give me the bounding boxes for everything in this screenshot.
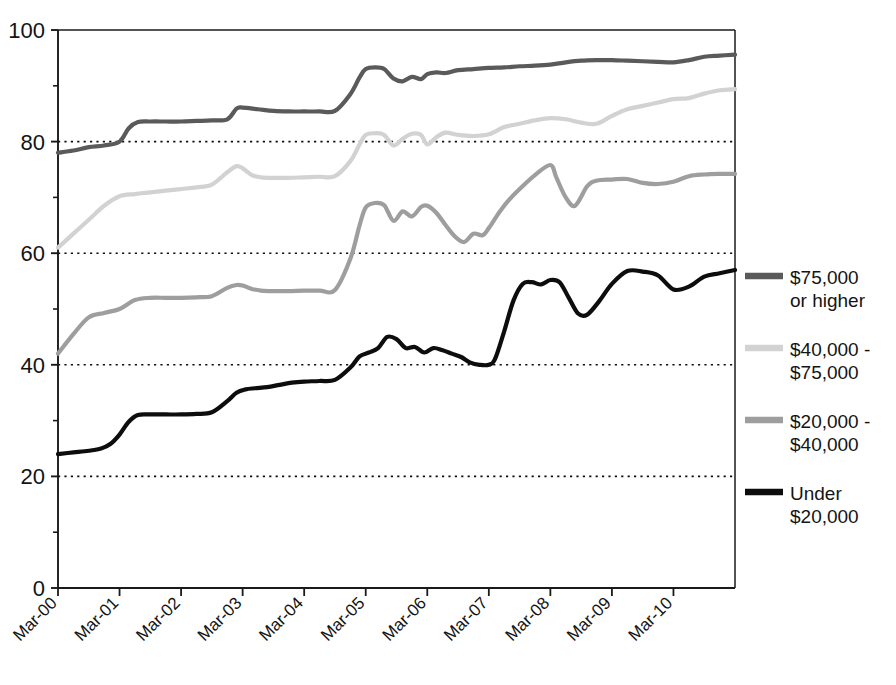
y-axis-ticks [51,30,58,588]
y-axis-labels: 020406080100 [8,18,45,601]
legend-label-line2: or higher [790,290,866,311]
line-chart-svg: 020406080100 Mar-00Mar-01Mar-02Mar-03Mar… [0,0,896,685]
legend-label-line2: $75,000 [790,362,859,383]
y-axis-tick-label: 80 [21,130,45,155]
x-axis-labels: Mar-00Mar-01Mar-02Mar-03Mar-04Mar-05Mar-… [9,593,676,645]
legend-label-line2: $40,000 [790,434,859,455]
chart-legend: $75,000or higher$40,000 -$75,000$20,000 … [745,267,870,527]
x-axis-tick-label: Mar-09 [563,593,615,645]
x-axis-tick-label: Mar-00 [9,593,61,645]
x-axis-tick-label: Mar-01 [71,593,123,645]
x-axis-tick-label: Mar-03 [194,593,246,645]
legend-label-line1: Under [790,483,842,504]
x-axis-tick-label: Mar-02 [132,593,184,645]
x-axis-tick-label: Mar-07 [440,593,492,645]
x-axis-ticks [58,588,673,596]
y-axis-tick-label: 60 [21,241,45,266]
legend-label-line1: $75,000 [790,267,859,288]
series-lines [58,55,735,455]
axes [58,30,735,588]
x-axis-tick-label: Mar-04 [255,593,307,645]
y-axis-tick-label: 20 [21,464,45,489]
legend-label-line1: $40,000 - [790,339,870,360]
chart-container: 020406080100 Mar-00Mar-01Mar-02Mar-03Mar… [0,0,896,685]
series-line [58,55,735,153]
legend-label-line1: $20,000 - [790,411,870,432]
x-axis-tick-label: Mar-06 [379,593,431,645]
x-axis-tick-label: Mar-05 [317,593,369,645]
x-axis-tick-label: Mar-10 [625,593,677,645]
x-axis-tick-label: Mar-08 [502,593,554,645]
y-axis-tick-label: 40 [21,353,45,378]
series-line [58,89,735,247]
y-axis-tick-label: 100 [8,18,45,43]
legend-label-line2: $20,000 [790,506,859,527]
